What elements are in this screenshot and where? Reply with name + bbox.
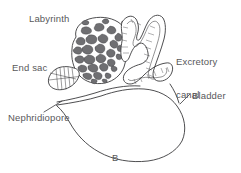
labyrinth-structure	[72, 17, 128, 83]
label-labyrinth: Labyrinth	[29, 13, 69, 24]
nephridium-figure: Labyrinth Excretory canal End sac Bladde…	[0, 0, 241, 173]
label-excretory-canal: Excretory canal	[176, 34, 217, 122]
excretory-canal-structure	[121, 15, 173, 84]
label-nephridiopore: Nephridiopore	[8, 112, 70, 123]
bladder-outline	[57, 89, 185, 162]
label-bladder: Bladder	[192, 90, 226, 101]
bladder-structure	[57, 86, 185, 162]
label-excretory-canal-line1: Excretory	[176, 56, 217, 67]
panel-caption: B	[112, 152, 119, 163]
end-sac-structure	[48, 67, 79, 90]
excretory-canal-outline	[121, 15, 173, 84]
label-end-sac: End sac	[12, 62, 47, 73]
